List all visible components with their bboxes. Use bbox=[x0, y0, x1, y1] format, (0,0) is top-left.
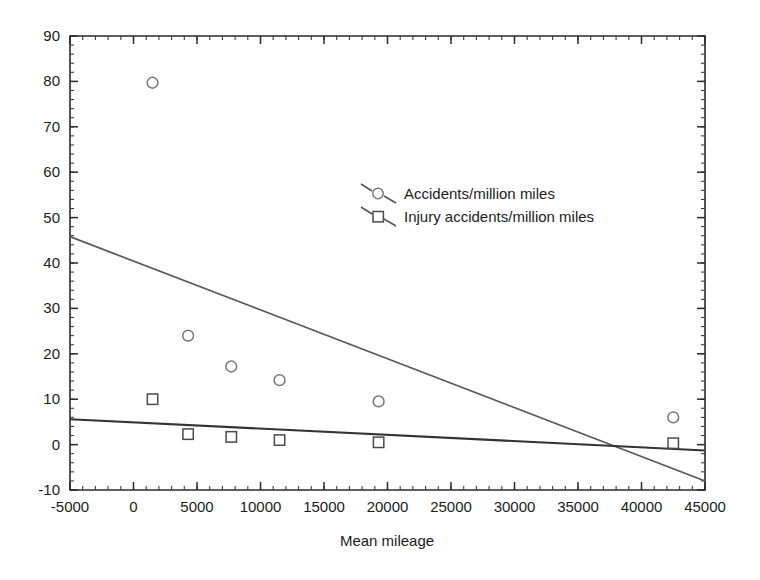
x-tick-label: 0 bbox=[129, 498, 137, 515]
x-tick-label: 35000 bbox=[557, 498, 599, 515]
chart-background bbox=[0, 0, 760, 580]
x-tick-label: 20000 bbox=[367, 498, 409, 515]
x-tick-label: 5000 bbox=[180, 498, 213, 515]
y-tick-label: -10 bbox=[38, 481, 60, 498]
y-tick-label: 60 bbox=[43, 163, 60, 180]
legend-label-accidents: Accidents/million miles bbox=[404, 185, 555, 202]
y-tick-label: 20 bbox=[43, 345, 60, 362]
y-tick-label: 30 bbox=[43, 299, 60, 316]
x-tick-label: 10000 bbox=[240, 498, 282, 515]
x-tick-label: 30000 bbox=[494, 498, 536, 515]
chart-figure: -500005000100001500020000250003000035000… bbox=[0, 0, 760, 580]
y-tick-label: 0 bbox=[52, 436, 60, 453]
x-tick-label: -5000 bbox=[51, 498, 89, 515]
x-tick-label: 40000 bbox=[621, 498, 663, 515]
y-tick-label: 90 bbox=[43, 27, 60, 44]
x-axis-title: Mean mileage bbox=[340, 532, 434, 549]
legend-label-injury: Injury accidents/million miles bbox=[404, 208, 594, 225]
x-tick-label: 15000 bbox=[303, 498, 345, 515]
y-tick-label: 70 bbox=[43, 118, 60, 135]
y-tick-label: 50 bbox=[43, 209, 60, 226]
x-tick-label: 25000 bbox=[430, 498, 472, 515]
y-tick-label: 10 bbox=[43, 390, 60, 407]
x-tick-label: 45000 bbox=[684, 498, 726, 515]
y-tick-label: 40 bbox=[43, 254, 60, 271]
scatter-plot-svg: -500005000100001500020000250003000035000… bbox=[0, 0, 760, 580]
y-tick-label: 80 bbox=[43, 72, 60, 89]
